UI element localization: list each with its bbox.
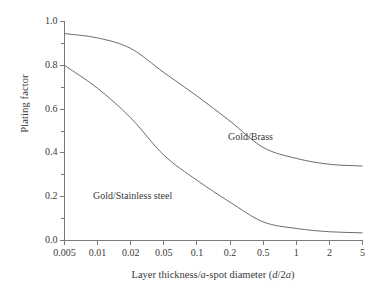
x-tick-label: 0.01 (89, 247, 107, 258)
x-axis-title-suffix: ) (291, 269, 295, 280)
chart-figure: Plating factor Layer thickness/a-spot di… (0, 0, 380, 293)
x-tick-label: 2 (327, 247, 332, 258)
x-axis-title: Layer thickness/a-spot diameter (d/2a) (64, 269, 362, 280)
x-axis-title-slash2: /2 (278, 269, 286, 280)
series-annotation: Gold/Brass (228, 131, 273, 142)
y-tick-label: 0.8 (24, 59, 58, 70)
x-tick-label: 0.5 (257, 247, 270, 258)
x-axis-title-prefix: Layer thickness/ (131, 269, 200, 280)
x-tick-label: 0.02 (122, 247, 140, 258)
series-annotation: Gold/Stainless steel (93, 190, 172, 201)
x-tick-label: 0.005 (53, 247, 76, 258)
x-tick-label: 0.1 (191, 247, 204, 258)
y-tick-label: 0.2 (24, 190, 58, 201)
y-tick-label: 0.4 (24, 146, 58, 157)
curves-group (65, 34, 363, 233)
y-tick-label: 0.0 (24, 234, 58, 245)
x-axis-title-mid: -spot diameter ( (206, 269, 272, 280)
y-tick-label: 1.0 (24, 15, 58, 26)
x-tick-label: 0.05 (155, 247, 173, 258)
series-curve (65, 34, 363, 166)
y-tick-label: 0.6 (24, 103, 58, 114)
x-tick-label: 5 (360, 247, 365, 258)
x-tick-label: 1 (294, 247, 299, 258)
axes-group (60, 22, 363, 246)
series-curve (65, 65, 363, 233)
x-tick-label: 0.2 (224, 247, 237, 258)
axis-lines (65, 22, 363, 241)
